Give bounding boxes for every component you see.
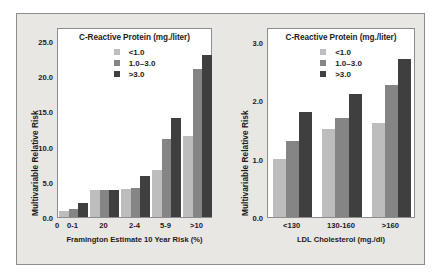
y-axis-tick-label: 20.0 <box>38 73 53 82</box>
y-axis-title-left: Multivariable Relative Risk <box>30 110 40 216</box>
bar <box>90 190 100 217</box>
bar <box>140 176 150 217</box>
bar <box>121 189 131 217</box>
y-axis-tick-label: 2.0 <box>252 97 263 106</box>
figure-frame: 0.05.010.015.020.025.0 Multivariable Rel… <box>16 13 425 265</box>
bar <box>100 190 110 217</box>
x-axis-title-right: LDL Cholesterol (mg./dl) <box>267 235 415 244</box>
bar <box>202 55 212 217</box>
bars-layer-left <box>58 29 211 217</box>
x-axis-origin-label: 0 <box>55 221 59 230</box>
bar <box>349 94 362 217</box>
y-axis-tick-label: 5.0 <box>42 178 53 187</box>
y-axis-tick-label: 3.0 <box>252 38 263 47</box>
framingham-risk-chart: 0.05.010.015.020.025.0 Multivariable Rel… <box>17 14 223 264</box>
bar <box>385 85 398 217</box>
bar <box>69 209 79 217</box>
bar <box>152 170 162 217</box>
bar <box>372 123 385 217</box>
plot-area-left: C-Reactive Protein (mg./liter) <1.01.0–3… <box>57 28 212 218</box>
plot-area-right: C-Reactive Protein (mg./liter) <1.01.0–3… <box>267 28 415 218</box>
y-axis-tick-label: 10.0 <box>38 143 53 152</box>
figure-root: 0.05.010.015.020.025.0 Multivariable Rel… <box>0 0 441 277</box>
y-axis-tick-label: 25.0 <box>38 38 53 47</box>
ldl-cholesterol-chart: 0.01.02.03.0 Multivariable Relative Risk… <box>223 14 426 264</box>
bar <box>286 141 299 217</box>
x-axis-tick-label: >10 <box>190 221 203 230</box>
bars-layer-right <box>268 29 414 217</box>
x-axis-tick-label: 5-9 <box>160 221 171 230</box>
bar <box>322 129 335 217</box>
bar <box>299 112 312 217</box>
x-axis-tick-label: 20 <box>99 221 107 230</box>
bar <box>398 59 411 217</box>
x-axis-ticks-left: 0-1202-45-9>100 <box>57 221 212 233</box>
x-axis-tick-label: <130 <box>283 221 300 230</box>
y-axis-title-right: Multivariable Relative Risk <box>240 110 250 216</box>
x-axis-tick-label: 2-4 <box>129 221 140 230</box>
x-axis-tick-label: >160 <box>382 221 399 230</box>
x-axis-tick-label: 130-160 <box>327 221 355 230</box>
bar <box>78 203 88 217</box>
bar <box>273 159 286 217</box>
x-axis-ticks-right: <130130-160>160 <box>267 221 415 233</box>
y-axis-tick-label: 0.0 <box>42 214 53 223</box>
bar <box>131 188 141 217</box>
y-axis-tick-label: 0.0 <box>252 214 263 223</box>
bar <box>162 139 172 217</box>
y-axis-tick-label: 1.0 <box>252 155 263 164</box>
bar <box>193 69 203 217</box>
x-axis-title-left: Framington Estimate 10 Year Risk (%) <box>57 235 212 244</box>
bar <box>183 136 193 217</box>
bar <box>171 118 181 217</box>
bar <box>109 190 119 217</box>
bar <box>335 118 348 217</box>
x-axis-tick-label: 0-1 <box>67 221 78 230</box>
bar <box>59 211 69 217</box>
y-axis-tick-label: 15.0 <box>38 108 53 117</box>
